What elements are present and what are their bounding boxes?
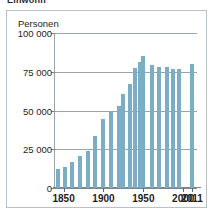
y-tick-label: 0 — [47, 183, 52, 194]
x-tick-label: 2011 — [181, 193, 203, 204]
bar — [150, 65, 154, 188]
bar — [190, 64, 194, 188]
bar-series — [55, 33, 197, 188]
bar — [128, 84, 132, 188]
bar — [70, 162, 74, 188]
plot-area: 025 00050 00075 000100 000 1850190019502… — [55, 33, 197, 188]
bar — [157, 67, 161, 188]
bar — [56, 169, 60, 188]
y-tick-label: 50 000 — [23, 105, 52, 116]
bar — [141, 56, 145, 188]
x-tick-label: 1900 — [92, 193, 114, 204]
bar — [121, 94, 125, 188]
x-tick-label: 1950 — [132, 193, 154, 204]
x-tick-mark — [103, 188, 104, 192]
bar — [177, 69, 181, 188]
chart-panel: Personen 025 00050 00075 000100 000 1850… — [6, 10, 207, 208]
x-tick-mark — [192, 188, 193, 192]
bar — [78, 156, 82, 188]
y-tick-label: 75 000 — [23, 66, 52, 77]
bar — [171, 69, 175, 189]
page-caption: Einwohn — [7, 0, 67, 5]
y-tick-label: 25 000 — [23, 144, 52, 155]
bar — [86, 151, 90, 188]
bar — [93, 136, 97, 188]
gridline — [55, 188, 197, 189]
bar — [101, 119, 105, 188]
bar — [117, 106, 121, 188]
x-tick-mark — [143, 188, 144, 192]
y-tick-label: 100 000 — [18, 28, 52, 39]
bar — [165, 67, 169, 188]
bar — [63, 167, 67, 188]
x-tick-mark — [183, 188, 184, 192]
bar — [133, 68, 137, 188]
x-tick-mark — [64, 188, 65, 192]
x-tick-label: 1850 — [52, 193, 74, 204]
bar — [109, 112, 113, 188]
